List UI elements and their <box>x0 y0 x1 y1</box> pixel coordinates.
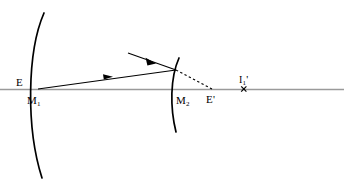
label-mirror-m2-text: M <box>176 94 186 106</box>
label-left-mirror-vertex: E <box>16 73 23 89</box>
ray-m1-to-m2 <box>38 70 176 89</box>
ray-diagram-canvas: E M1 M2 E' I1' <box>0 0 344 188</box>
label-left-mirror-vertex-text: E <box>16 76 23 88</box>
label-mirror-m2: M2 <box>176 91 189 108</box>
label-mirror-m2-subscript: 2 <box>186 100 190 108</box>
label-mirror-m1: M1 <box>27 91 40 108</box>
diagram-svg <box>0 0 344 188</box>
label-e-prime: E' <box>206 90 215 106</box>
label-mirror-m1-text: M <box>27 94 37 106</box>
label-image-point-text: I <box>239 74 242 85</box>
label-e-prime-text: E <box>206 93 213 105</box>
dashed-virtual-ray <box>176 70 212 89</box>
label-e-prime-mark: ' <box>213 93 215 105</box>
incoming-ray-arrowhead <box>146 58 156 66</box>
label-mirror-m1-subscript: 1 <box>37 100 41 108</box>
label-image-point: I1' <box>239 70 248 87</box>
label-image-point-prime: ' <box>246 73 248 85</box>
